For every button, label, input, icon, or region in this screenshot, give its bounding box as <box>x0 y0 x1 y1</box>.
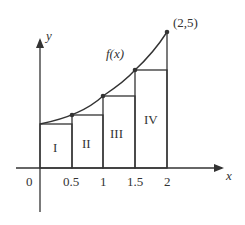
curve-label: f(x) <box>106 46 124 61</box>
rect-label-ii: II <box>82 136 91 151</box>
rect-label-iii: III <box>110 126 123 141</box>
riemann-sum-diagram: y x 0 0.5 1 1.5 2 f(x) (2,5) I II III IV <box>0 0 245 225</box>
x-tick-2: 2 <box>164 174 171 189</box>
x-tick-1-5: 1.5 <box>127 174 143 189</box>
x-tick-0-5: 0.5 <box>63 174 79 189</box>
x-tick-1: 1 <box>100 174 107 189</box>
rect-label-i: I <box>53 140 57 155</box>
rectangles <box>40 32 167 168</box>
endpoint-label: (2,5) <box>173 15 198 30</box>
x-axis-label: x <box>225 168 232 183</box>
origin-label: 0 <box>26 174 33 189</box>
sample-points <box>70 30 170 118</box>
y-axis-label: y <box>44 28 52 43</box>
rect-label-iv: IV <box>144 112 158 127</box>
